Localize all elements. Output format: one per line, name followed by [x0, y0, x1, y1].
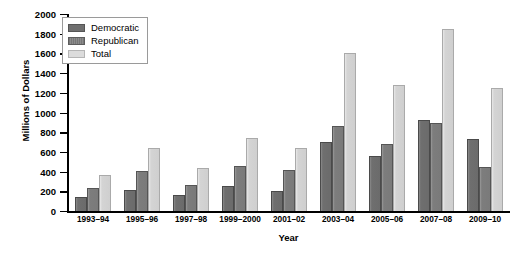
bar-total	[442, 29, 454, 211]
y-axis-tick-label: 1600	[35, 48, 56, 59]
y-axis-tick: 1400	[60, 73, 67, 74]
bar-democratic	[124, 190, 136, 211]
bar-group	[167, 14, 216, 211]
x-axis-tick-labels: 1993–941995–961997–981999–20002001–02200…	[69, 214, 510, 224]
bar-democratic	[222, 186, 234, 211]
bar-total	[246, 138, 258, 211]
bar-republican	[87, 188, 99, 211]
bar-democratic	[320, 142, 332, 211]
x-axis-tick-label: 2007–08	[412, 214, 461, 224]
bar-total	[491, 88, 503, 211]
x-axis-tick-label: 1999–2000	[216, 214, 265, 224]
y-axis-tick: 1000	[60, 113, 67, 114]
y-axis-tick-label: 1400	[35, 68, 56, 79]
bar-republican	[479, 167, 491, 211]
bar-total	[197, 168, 209, 211]
bar-group	[314, 14, 363, 211]
y-axis-tick: 2000	[60, 14, 67, 15]
x-axis-line	[67, 211, 510, 213]
y-axis-tick-label: 1000	[35, 107, 56, 118]
x-axis-tick-label: 2005–06	[363, 214, 412, 224]
legend-swatch-republican	[68, 37, 85, 45]
legend-swatch-total	[68, 50, 85, 58]
bar-democratic	[369, 156, 381, 211]
bar-democratic	[271, 191, 283, 211]
y-axis-tick: 1200	[60, 93, 67, 94]
bar-total	[393, 85, 405, 211]
x-axis-tick-label: 2009–10	[461, 214, 510, 224]
bar-democratic	[75, 197, 87, 211]
bar-republican	[283, 170, 295, 211]
bar-group	[363, 14, 412, 211]
x-axis-tick-label: 1995–96	[118, 214, 167, 224]
y-axis-tick: 200	[60, 191, 67, 192]
y-axis-tick-label: 1800	[35, 28, 56, 39]
x-axis-tick-label: 1993–94	[69, 214, 118, 224]
legend-swatch-democratic	[68, 24, 85, 32]
bar-total	[99, 175, 111, 211]
y-axis-tick-label: 0	[51, 206, 56, 217]
bar-chart: Millions of Dollars 02004006008001000120…	[0, 0, 518, 259]
bar-republican	[234, 166, 246, 211]
y-axis-tick-label: 200	[40, 186, 56, 197]
bar-group	[216, 14, 265, 211]
legend-label-democratic: Democratic	[91, 22, 139, 33]
x-axis-title: Year	[67, 232, 510, 243]
bar-republican	[381, 144, 393, 211]
y-axis-tick-label: 400	[40, 166, 56, 177]
y-axis-tick-label: 2000	[35, 9, 56, 20]
legend-label-republican: Republican	[91, 35, 139, 46]
legend-label-total: Total	[91, 48, 111, 59]
legend-item-democratic: Democratic	[68, 22, 139, 33]
bar-group	[265, 14, 314, 211]
bar-group	[461, 14, 510, 211]
legend: Democratic Republican Total	[62, 17, 148, 64]
x-axis-tick-label: 1997–98	[167, 214, 216, 224]
y-axis-tick: 400	[60, 172, 67, 173]
bar-democratic	[173, 195, 185, 211]
bar-democratic	[467, 139, 479, 211]
y-axis-tick: 0	[60, 211, 67, 212]
y-axis-tick-label: 1200	[35, 87, 56, 98]
bar-group	[412, 14, 461, 211]
bar-total	[344, 53, 356, 211]
bar-republican	[332, 126, 344, 211]
bar-democratic	[418, 120, 430, 211]
bar-total	[295, 148, 307, 211]
legend-item-republican: Republican	[68, 35, 139, 46]
bar-republican	[136, 171, 148, 211]
y-axis-tick-label: 800	[40, 127, 56, 138]
y-axis-tick: 600	[60, 152, 67, 153]
y-axis-title: Millions of Dollars	[20, 21, 31, 181]
x-axis-tick-label: 2003–04	[314, 214, 363, 224]
y-axis-tick: 800	[60, 132, 67, 133]
bar-republican	[430, 123, 442, 211]
legend-item-total: Total	[68, 48, 139, 59]
y-axis-tick-label: 600	[40, 146, 56, 157]
bar-republican	[185, 185, 197, 211]
bar-total	[148, 148, 160, 211]
x-axis-tick-label: 2001–02	[265, 214, 314, 224]
